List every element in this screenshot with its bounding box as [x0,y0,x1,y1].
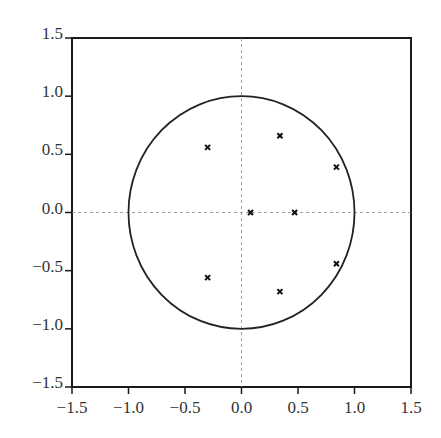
y-tick-label: −1.0 [32,315,63,334]
data-point-marker [205,275,210,280]
y-tick-label: 1.5 [42,24,63,43]
data-point-marker [277,289,282,294]
y-axis-ticks: 1.51.00.50.0−0.5−1.0−1.5 [32,24,72,392]
y-tick-label: 0.0 [42,199,63,218]
y-tick-label: −0.5 [32,257,63,276]
x-tick-label: 0.5 [287,398,308,417]
data-point-marker [205,145,210,150]
data-point-marker [277,133,282,138]
y-tick-label: 0.5 [42,140,63,159]
x-tick-label: −0.5 [170,398,201,417]
x-tick-label: 1.0 [344,398,365,417]
unit-circle-scatter-chart: −1.5−1.0−0.50.00.51.01.5 1.51.00.50.0−0.… [0,0,441,438]
x-tick-label: −1.0 [113,398,144,417]
x-tick-label: 1.5 [400,398,421,417]
x-tick-label: 0.0 [231,398,252,417]
data-point-marker [334,261,339,266]
reference-lines [72,38,411,387]
x-tick-label: −1.5 [57,398,88,417]
y-tick-label: −1.5 [32,373,63,392]
y-tick-label: 1.0 [42,82,63,101]
data-points [205,133,339,294]
data-point-marker [334,165,339,170]
x-axis-ticks: −1.5−1.0−0.50.00.51.01.5 [57,387,422,417]
